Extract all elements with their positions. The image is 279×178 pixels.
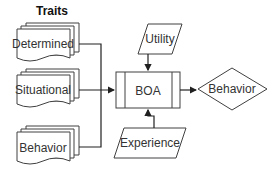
trait-behavior-label: Behavior	[19, 141, 66, 155]
trait-situational-label: Situational	[15, 83, 71, 97]
boa-process: BOA	[116, 72, 180, 108]
utility-label: Utility	[145, 32, 174, 46]
experience-input: Experience	[114, 128, 186, 158]
diagram-canvas: Traits Determined Situational Behavior U…	[0, 0, 279, 178]
trait-behavior-stack: Behavior	[17, 126, 79, 164]
traits-title: Traits	[36, 4, 68, 18]
trait-determined-stack: Determined	[12, 23, 79, 61]
behavior-output-label: Behavior	[208, 82, 255, 96]
experience-arrow	[148, 110, 154, 128]
experience-label: Experience	[120, 136, 180, 150]
behavior-output: Behavior	[198, 68, 267, 110]
trait-situational-stack: Situational	[15, 69, 79, 107]
trait-determined-label: Determined	[12, 37, 74, 51]
utility-input: Utility	[138, 24, 182, 54]
boa-label: BOA	[135, 84, 160, 98]
trait-connectors	[79, 44, 114, 147]
